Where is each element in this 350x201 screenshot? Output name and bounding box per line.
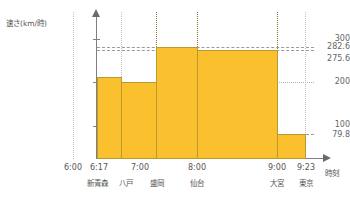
station-label-shin-aomori: 新青森	[87, 177, 108, 188]
x-tick-label-923: 9:23	[297, 163, 315, 172]
bar-segment-1	[97, 77, 122, 159]
x-tick-label-900: 9:00	[268, 163, 286, 172]
x-axis-arrow-icon	[323, 154, 331, 162]
station-label-tokyo: 東京	[299, 177, 313, 188]
bar-segment-5	[277, 134, 306, 159]
x-tick-label-617: 6:17	[90, 163, 108, 172]
y-axis-title: 速さ(km/時)	[6, 17, 47, 28]
bar-segment-3	[156, 47, 198, 159]
bar-segment-4	[197, 50, 278, 159]
x-axis-title: 時刻	[325, 167, 339, 178]
x-tick-label-800: 8:00	[188, 163, 206, 172]
station-label-omiya: 大宮	[270, 177, 284, 188]
x-tick-label-600: 6:00	[64, 163, 82, 172]
gridline-282-6	[97, 47, 314, 48]
y-tick-mark-300	[93, 39, 100, 40]
station-label-sendai: 仙台	[190, 177, 204, 188]
x-tick-label-700: 7:00	[131, 163, 149, 172]
bar-segment-2	[121, 82, 157, 159]
station-label-hachinohe: 八戸	[119, 177, 133, 188]
gridline-x-600	[73, 12, 74, 159]
y-axis-arrow-icon	[92, 9, 100, 17]
station-label-morioka: 盛岡	[150, 177, 164, 188]
speed-vs-time-bar-chart: 速さ(km/時) 時刻 300 282.6 275.6 200 100 79.8…	[0, 0, 350, 201]
